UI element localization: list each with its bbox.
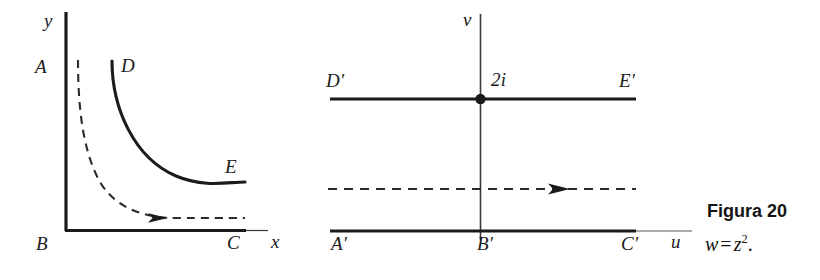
formula-lhs: w [705, 233, 718, 255]
w-plane-dashed-arrowhead-icon [548, 184, 570, 195]
formula-period: . [748, 233, 753, 255]
w-plane-label-D-prime: D [326, 71, 344, 90]
w-plane-point-2i-marker [475, 94, 485, 104]
z-plane-label-B: B [36, 234, 48, 253]
w-plane-label-B-prime: B [477, 234, 493, 253]
z-plane-label-D: D [121, 56, 135, 75]
w-plane-point-label-2i: 2i [491, 70, 506, 89]
figure-caption-formula: w=z2. [705, 234, 753, 254]
w-plane-label-E-prime: E [619, 71, 635, 90]
w-plane-v-axis-label: v [463, 10, 472, 29]
z-plane-label-C: C [227, 233, 240, 252]
w-plane-u-axis-label: u [671, 232, 681, 251]
formula-operator: = [718, 233, 733, 255]
z-plane-dashed-path-ABC [78, 60, 245, 218]
z-plane-axes [65, 12, 268, 231]
figure-caption-title: Figura 20 [707, 202, 787, 220]
z-plane-label-E: E [225, 157, 237, 176]
figure-20-container: y A B C D E x v D E 2i A B C u Figura 20… [0, 0, 820, 280]
z-plane-x-axis-label: x [271, 232, 280, 251]
z-plane-y-axis-label: y [44, 11, 53, 30]
figure-drawing [0, 0, 820, 280]
w-plane-label-C-prime: C [621, 234, 638, 253]
w-plane-axes [481, 14, 693, 240]
z-plane-label-A: A [35, 57, 47, 76]
z-plane-dashed-arrowhead-icon [148, 213, 168, 223]
w-plane-label-A-prime: A [331, 234, 347, 253]
